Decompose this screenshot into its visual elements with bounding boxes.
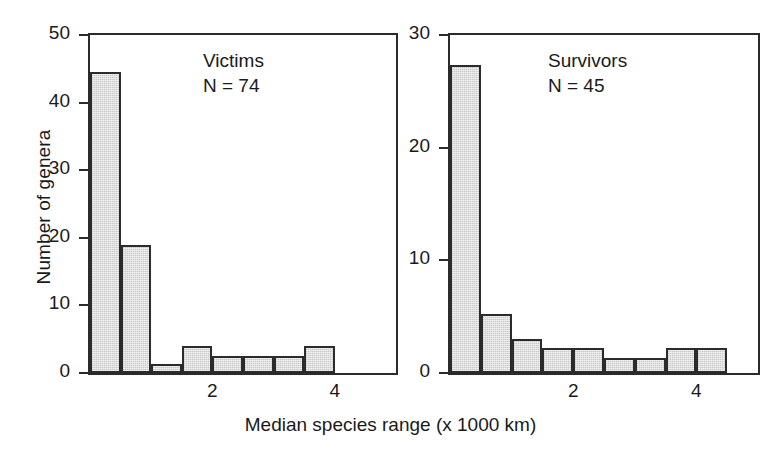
bar <box>666 348 697 373</box>
x-tick-label: 4 <box>666 380 726 402</box>
x-tick-label: 2 <box>543 380 603 402</box>
y-tick-mark <box>439 372 448 374</box>
bar <box>304 346 335 373</box>
bar <box>151 364 182 373</box>
y-tick-mark <box>439 147 448 149</box>
bar <box>696 348 727 373</box>
annotation-n-survivors: N = 45 <box>548 73 627 98</box>
y-tick-label: 0 <box>368 360 430 382</box>
bar <box>121 245 152 373</box>
y-tick-mark <box>439 34 448 36</box>
panel-annotation-survivors: Survivors N = 45 <box>548 48 627 98</box>
bar <box>604 358 635 373</box>
bar <box>573 348 604 373</box>
bar <box>481 314 512 373</box>
bar <box>243 356 274 373</box>
annotation-title-survivors: Survivors <box>548 48 627 73</box>
bar <box>274 356 305 373</box>
figure-histogram-pair: Number of genera 01020304050 24 Victims … <box>0 0 781 457</box>
y-tick-mark <box>439 259 448 261</box>
y-tick-label: 30 <box>368 22 430 44</box>
bar <box>90 72 121 373</box>
bar <box>512 339 543 373</box>
bar <box>212 356 243 373</box>
bar <box>635 358 666 373</box>
y-tick-label: 20 <box>368 135 430 157</box>
bar <box>182 346 213 373</box>
y-tick-label: 10 <box>368 247 430 269</box>
bar <box>450 65 481 373</box>
x-axis-title: Median species range (x 1000 km) <box>0 414 781 436</box>
bar <box>542 348 573 373</box>
